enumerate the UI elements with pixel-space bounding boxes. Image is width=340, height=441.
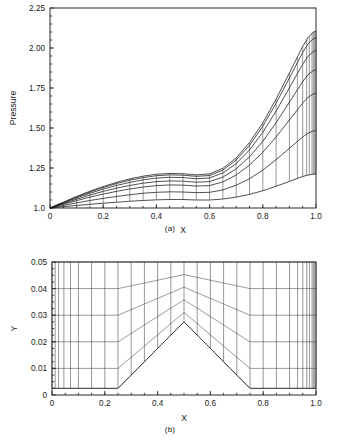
x-tick-label-a: 1.0 [310, 212, 322, 221]
y-tick-label-a: 2.25 [29, 4, 45, 13]
x-tick-label-b: 0.4 [152, 399, 164, 408]
x-tick-label-b: 0 [50, 399, 55, 408]
panel-a-pressure-plot: 00.20.40.60.81.01.01.251.501.752.002.25X… [0, 0, 340, 240]
figure-container: 00.20.40.60.81.01.01.251.501.752.002.25X… [0, 0, 340, 441]
x-tick-label-b: 0.6 [205, 399, 217, 408]
y-tick-label-b: 0.02 [31, 338, 47, 347]
x-axis-title-b: X [181, 413, 187, 423]
y-tick-label-b: 0.01 [31, 364, 47, 373]
panel-b-caption: (b) [0, 425, 340, 434]
pressure-chart-svg: 00.20.40.60.81.01.01.251.501.752.002.25X… [0, 0, 340, 240]
grid-chart-svg: 00.20.40.60.81.000.010.020.030.040.05XY [0, 240, 340, 441]
panel-a-caption: (a) [0, 224, 340, 233]
y-tick-label-b: 0.04 [31, 285, 47, 294]
y-tick-label-b: 0.03 [31, 311, 47, 320]
x-tick-label-a: 0.4 [151, 212, 163, 221]
x-tick-label-a: 0 [48, 212, 53, 221]
x-tick-label-b: 0.2 [99, 399, 111, 408]
panel-a-content: 00.20.40.60.81.01.01.251.501.752.002.25X… [8, 4, 322, 235]
y-tick-label-b: 0.05 [31, 258, 47, 267]
y-tick-label-a: 1.0 [34, 204, 46, 213]
x-tick-label-b: 1.0 [310, 399, 322, 408]
y-tick-label-a: 2.00 [29, 44, 45, 53]
panel-b-grid-plot: 00.20.40.60.81.000.010.020.030.040.05XY [0, 240, 340, 441]
y-tick-label-a: 1.75 [29, 84, 45, 93]
x-tick-label-a: 0.2 [98, 212, 110, 221]
y-tick-label-a: 1.25 [29, 164, 45, 173]
panel-b-content: 00.20.40.60.81.000.010.020.030.040.05XY [9, 258, 322, 423]
y-tick-label-a: 1.50 [29, 124, 45, 133]
y-axis-title-b: Y [9, 325, 19, 331]
y-tick-label-b: 0 [42, 391, 47, 400]
x-tick-label-a: 0.6 [204, 212, 216, 221]
x-tick-label-b: 0.8 [258, 399, 270, 408]
y-axis-title-a: Pressure [8, 91, 18, 126]
x-tick-label-a: 0.8 [257, 212, 269, 221]
